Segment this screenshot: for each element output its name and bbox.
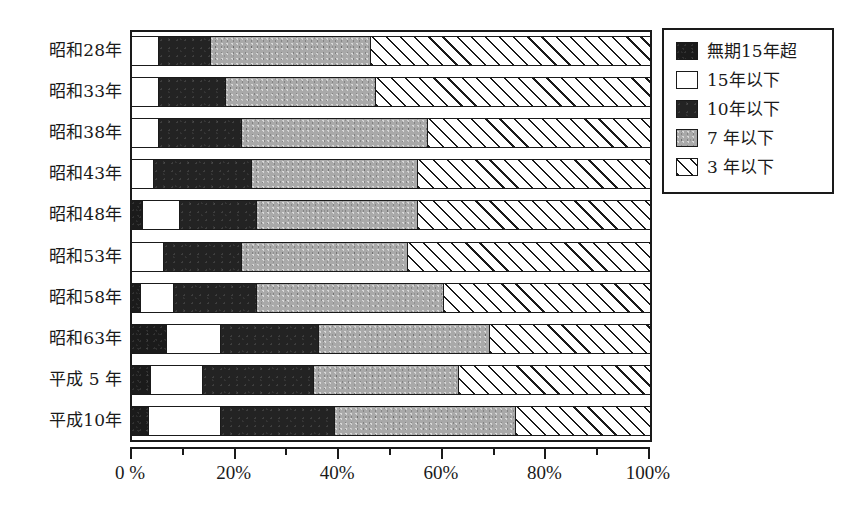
bar-segment-1: [132, 119, 158, 147]
bar-row: [132, 406, 650, 436]
bar-segment-4: [427, 119, 650, 147]
bar-segment-3: [225, 78, 375, 106]
category-label-5: 昭和53年: [8, 246, 122, 266]
bar-segment-1: [140, 284, 174, 312]
legend-swatch-icon-3: [676, 129, 698, 147]
bar-segment-1: [148, 407, 221, 435]
legend-label-1: 15年以下: [707, 71, 780, 89]
legend-item-2[interactable]: 10年以下: [664, 94, 832, 123]
bar-segment-0: [132, 325, 166, 353]
legend-item-0[interactable]: 無期15年超: [664, 36, 832, 65]
bar-segment-4: [458, 366, 650, 394]
stacked-bar-chart: 昭和28年昭和33年昭和38年昭和43年昭和48年昭和53年昭和58年昭和63年…: [0, 0, 849, 517]
bar-segment-1: [132, 37, 158, 65]
category-label-6: 昭和58年: [8, 287, 122, 307]
bar-row: [132, 200, 650, 230]
plot-area: [130, 30, 652, 442]
bar-segment-0: [132, 284, 140, 312]
legend-label-2: 10年以下: [707, 100, 780, 118]
bar-segment-3: [241, 119, 427, 147]
x-tick-50: [389, 449, 391, 455]
bar-segment-1: [132, 78, 158, 106]
x-tick-10: [182, 449, 184, 455]
bar-segment-2: [163, 243, 241, 271]
x-tick-30: [285, 449, 287, 455]
bar-segment-2: [158, 119, 241, 147]
plot-bottom-border: [130, 440, 650, 442]
bar-segment-3: [256, 201, 417, 229]
bar-segment-1: [132, 160, 153, 188]
x-tick-60: [441, 449, 443, 459]
bar-segment-3: [318, 325, 489, 353]
bar-segment-1: [166, 325, 220, 353]
x-tick-70: [493, 449, 495, 455]
bar-segment-4: [417, 201, 650, 229]
x-tick-20: [234, 449, 236, 459]
category-label-0: 昭和28年: [8, 40, 122, 60]
x-tick-90: [596, 449, 598, 455]
x-tick-80: [544, 449, 546, 459]
x-tick-40: [337, 449, 339, 459]
category-label-1: 昭和33年: [8, 81, 122, 101]
bar-segment-1: [142, 201, 178, 229]
bar-segment-0: [132, 366, 150, 394]
bar-segment-4: [489, 325, 650, 353]
bar-segment-1: [132, 243, 163, 271]
bar-segment-3: [241, 243, 407, 271]
bar-segment-0: [132, 407, 148, 435]
bar-row: [132, 283, 650, 313]
bar-row: [132, 365, 650, 395]
legend-item-1[interactable]: 15年以下: [664, 65, 832, 94]
bar-row: [132, 242, 650, 272]
legend-label-3: 7 年以下: [707, 129, 774, 147]
x-tick-0: [130, 449, 132, 459]
category-label-3: 昭和43年: [8, 163, 122, 183]
legend-swatch-icon-0: [676, 42, 698, 60]
bar-segment-2: [220, 407, 334, 435]
category-label-9: 平成10年: [8, 410, 122, 430]
legend-label-4: 3 年以下: [707, 158, 774, 176]
x-tick-label-100: 100%: [626, 462, 670, 484]
bar-row: [132, 324, 650, 354]
bar-segment-3: [313, 366, 458, 394]
bar-segment-2: [220, 325, 318, 353]
bar-segment-3: [256, 284, 442, 312]
bar-segment-4: [443, 284, 650, 312]
bar-segment-2: [179, 201, 257, 229]
x-tick-label-0: 0 %: [115, 462, 145, 484]
bar-segment-2: [158, 78, 225, 106]
bar-segment-2: [173, 284, 256, 312]
bar-segment-2: [153, 160, 251, 188]
legend-label-0: 無期15年超: [707, 42, 797, 60]
x-tick-label-20: 20%: [216, 462, 251, 484]
bar-segment-4: [370, 37, 650, 65]
bar-segment-4: [515, 407, 650, 435]
bar-segment-4: [417, 160, 650, 188]
bar-segment-4: [375, 78, 650, 106]
category-label-2: 昭和38年: [8, 122, 122, 142]
bar-segment-2: [202, 366, 313, 394]
bar-segment-3: [334, 407, 515, 435]
bar-segment-2: [158, 37, 210, 65]
legend-swatch-icon-4: [676, 158, 698, 176]
bar-segment-0: [132, 201, 142, 229]
legend-item-4[interactable]: 3 年以下: [664, 152, 832, 181]
legend: 無期15年超15年以下10年以下7 年以下3 年以下: [662, 28, 834, 194]
bar-segment-3: [210, 37, 371, 65]
x-tick-100: [648, 449, 650, 459]
legend-item-3[interactable]: 7 年以下: [664, 123, 832, 152]
category-label-4: 昭和48年: [8, 204, 122, 224]
x-tick-label-40: 40%: [320, 462, 355, 484]
bar-row: [132, 118, 650, 148]
y-axis-category-labels: 昭和28年昭和33年昭和38年昭和43年昭和48年昭和53年昭和58年昭和63年…: [8, 30, 126, 442]
bar-segment-4: [407, 243, 650, 271]
bar-row: [132, 77, 650, 107]
legend-swatch-icon-2: [676, 100, 698, 118]
category-label-7: 昭和63年: [8, 328, 122, 348]
legend-swatch-icon-1: [676, 71, 698, 89]
bar-segment-1: [150, 366, 202, 394]
bar-row: [132, 159, 650, 189]
bar-segment-3: [251, 160, 417, 188]
category-label-8: 平成 5 年: [8, 369, 122, 389]
bar-row: [132, 36, 650, 66]
